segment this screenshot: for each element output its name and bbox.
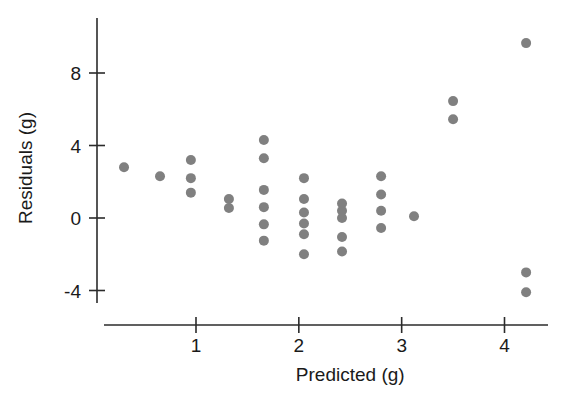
data-point [299,249,309,259]
data-point [521,287,531,297]
data-point [448,114,458,124]
data-point [299,173,309,183]
y-axis-tick-label: 8 [70,63,81,84]
y-axis-tick-label: 4 [70,136,81,157]
data-point [337,247,347,257]
y-axis-tick-label: -4 [64,281,81,302]
data-point [259,202,269,212]
data-point [155,171,165,181]
data-point [259,153,269,163]
y-axis: -4048 [64,18,105,303]
x-axis-title: Predicted (g) [296,364,405,385]
data-points-layer [119,38,531,297]
y-axis-title: Residuals (g) [15,112,36,224]
scatter-plot-canvas: -4048 1234 Predicted (g)Residuals (g) [0,0,576,404]
data-point [448,96,458,106]
data-point [119,162,129,172]
data-point [376,223,386,233]
x-axis: 1234 [104,317,548,356]
data-point [259,135,269,145]
x-axis-tick-label: 1 [191,335,202,356]
data-point [186,188,196,198]
x-axis-tick-label: 2 [294,335,305,356]
data-point [259,236,269,246]
data-point [224,194,234,204]
data-point [186,173,196,183]
data-point [259,185,269,195]
data-point [376,189,386,199]
data-point [376,206,386,216]
data-point [259,219,269,229]
residual-scatter-figure: -4048 1234 Predicted (g)Residuals (g) [0,0,576,404]
data-point [337,232,347,242]
y-axis-tick-label: 0 [70,208,81,229]
data-point [521,267,531,277]
data-point [521,38,531,48]
data-point [337,213,347,223]
data-point [376,171,386,181]
data-point [186,155,196,165]
x-axis-tick-label: 4 [499,335,510,356]
data-point [409,211,419,221]
data-point [299,218,309,228]
data-point [299,229,309,239]
data-point [224,203,234,213]
x-axis-tick-label: 3 [396,335,407,356]
data-point [299,194,309,204]
data-point [299,208,309,218]
